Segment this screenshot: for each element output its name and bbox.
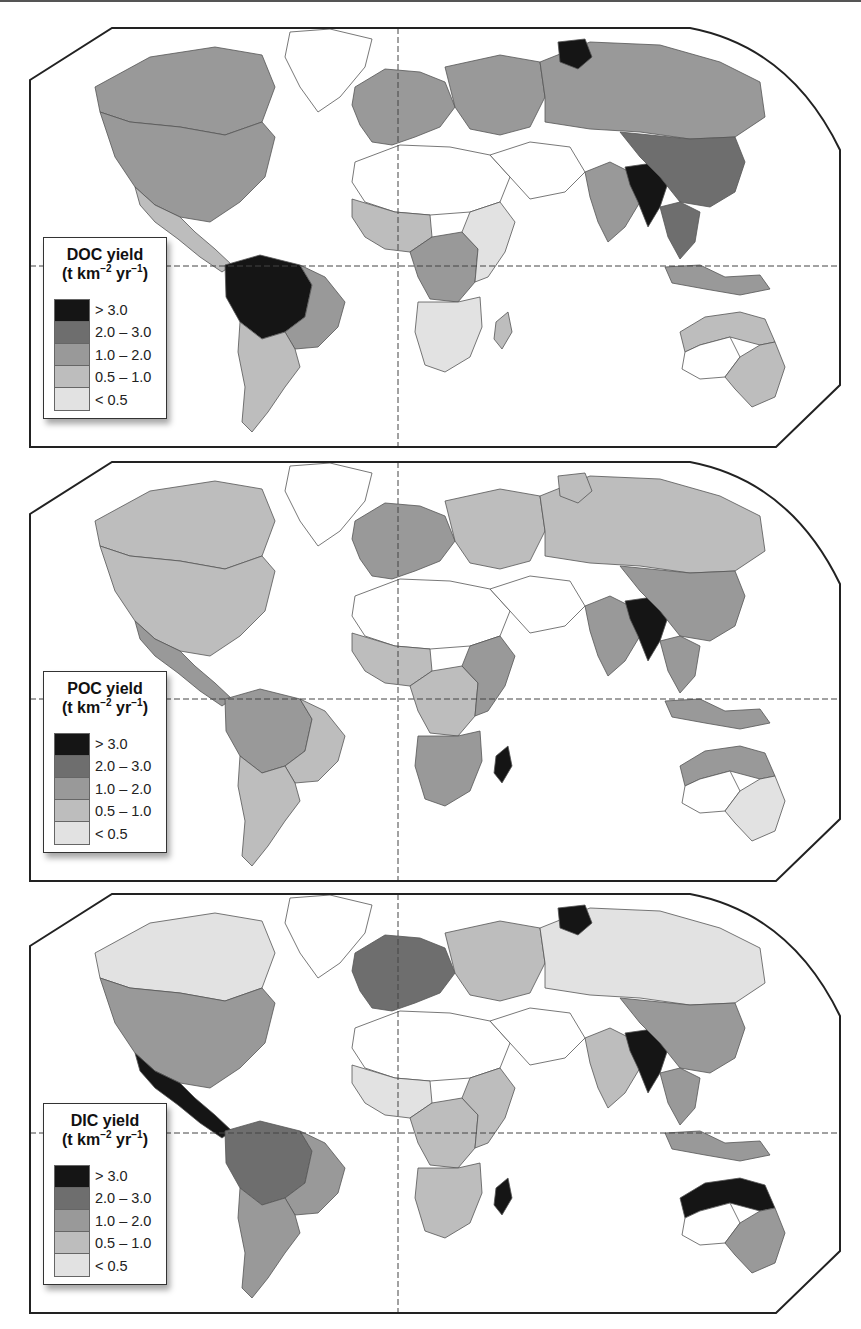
legend-title: DIC yield [44, 1112, 166, 1130]
legend-swatch [55, 388, 89, 410]
region-africa-north [352, 1011, 510, 1081]
region-madagascar [494, 1178, 512, 1215]
legend-swatch [55, 734, 89, 756]
region-africa-south [415, 731, 482, 806]
legend-swatch [55, 366, 89, 388]
legend-swatch [55, 344, 89, 366]
legend-box: DIC yield(t km−2 yr−1)> 3.02.0 – 3.01.0 … [43, 1103, 167, 1285]
legend-label: < 0.5 [95, 389, 151, 411]
legend-label: > 3.0 [95, 733, 151, 755]
legend-swatch [55, 1210, 89, 1232]
legend-label: 0.5 – 1.0 [95, 800, 151, 822]
legend-unit-part: ) [143, 265, 148, 282]
legend-unit: (t km−2 yr−1) [44, 265, 166, 283]
legend-swatch [55, 1254, 89, 1276]
legend-swatch [55, 756, 89, 778]
region-se-asia [660, 202, 700, 259]
region-africa-north [352, 145, 510, 215]
region-russia-west [445, 55, 545, 135]
legend-unit-part: −2 [100, 263, 111, 274]
legend-swatch [55, 800, 89, 822]
region-europe [352, 69, 455, 145]
legend-label: > 3.0 [95, 299, 151, 321]
legend-unit-part: −1 [131, 1129, 142, 1140]
region-se-asia [660, 1068, 700, 1125]
region-indonesia [665, 699, 770, 729]
region-europe [352, 935, 455, 1011]
legend-swatch [55, 778, 89, 800]
legend-labels: > 3.02.0 – 3.01.0 – 2.00.5 – 1.0< 0.5 [95, 299, 151, 411]
legend-title: DOC yield [44, 246, 166, 264]
region-africa-south [415, 1163, 482, 1238]
legend-swatch [55, 1166, 89, 1188]
legend-label: < 0.5 [95, 1255, 151, 1277]
legend-unit-part: −1 [131, 697, 142, 708]
region-europe [352, 503, 455, 579]
legend-swatches [54, 299, 90, 411]
region-africa-south [415, 297, 482, 372]
legend-label: 2.0 – 3.0 [95, 1187, 151, 1209]
region-russia-west [445, 489, 545, 569]
legend-swatch [55, 1232, 89, 1254]
legend-box: DOC yield(t km−2 yr−1)> 3.02.0 – 3.01.0 … [43, 237, 167, 419]
legend-unit-part: yr [112, 1131, 132, 1148]
legend-labels: > 3.02.0 – 3.01.0 – 2.00.5 – 1.0< 0.5 [95, 733, 151, 845]
legend-box: POC yield(t km−2 yr−1)> 3.02.0 – 3.01.0 … [43, 671, 167, 853]
legend-labels: > 3.02.0 – 3.01.0 – 2.00.5 – 1.0< 0.5 [95, 1165, 151, 1277]
legend-unit-part: yr [112, 699, 132, 716]
legend-swatch [55, 322, 89, 344]
legend-unit-part: ) [143, 1131, 148, 1148]
legend-label: 0.5 – 1.0 [95, 1232, 151, 1254]
legend-label: 2.0 – 3.0 [95, 755, 151, 777]
legend-label: 0.5 – 1.0 [95, 366, 151, 388]
legend-unit-part: −1 [131, 263, 142, 274]
map-panel-poc: POC yield(t km−2 yr−1)> 3.02.0 – 3.01.0 … [0, 461, 861, 881]
legend-unit-part: ) [143, 699, 148, 716]
legend-unit-part: (t km [62, 1131, 100, 1148]
legend-title: POC yield [44, 680, 166, 698]
legend-swatch [55, 1188, 89, 1210]
region-madagascar [494, 312, 512, 349]
legend-unit-part: −2 [100, 1129, 111, 1140]
region-north-america [100, 112, 275, 222]
legend-unit-part: (t km [62, 699, 100, 716]
legend-label: < 0.5 [95, 823, 151, 845]
region-indonesia [665, 265, 770, 295]
region-africa-north [352, 579, 510, 649]
region-se-asia [660, 636, 700, 693]
legend-swatch [55, 822, 89, 844]
top-rule [0, 0, 861, 2]
region-north-america [100, 978, 275, 1088]
region-madagascar [494, 746, 512, 783]
legend-unit-part: (t km [62, 265, 100, 282]
region-north-america [100, 546, 275, 656]
legend-unit-part: −2 [100, 697, 111, 708]
legend-swatch [55, 300, 89, 322]
legend-label: 1.0 – 2.0 [95, 1210, 151, 1232]
legend-swatches [54, 1165, 90, 1277]
map-panel-doc: DOC yield(t km−2 yr−1)> 3.02.0 – 3.01.0 … [0, 27, 861, 447]
map-panel-dic: DIC yield(t km−2 yr−1)> 3.02.0 – 3.01.0 … [0, 893, 861, 1313]
legend-unit: (t km−2 yr−1) [44, 1131, 166, 1149]
legend-swatches [54, 733, 90, 845]
legend-label: 1.0 – 2.0 [95, 778, 151, 800]
legend-unit: (t km−2 yr−1) [44, 699, 166, 717]
legend-unit-part: yr [112, 265, 132, 282]
legend-label: 2.0 – 3.0 [95, 321, 151, 343]
legend-label: > 3.0 [95, 1165, 151, 1187]
region-indonesia [665, 1131, 770, 1161]
region-russia-west [445, 921, 545, 1001]
legend-label: 1.0 – 2.0 [95, 344, 151, 366]
